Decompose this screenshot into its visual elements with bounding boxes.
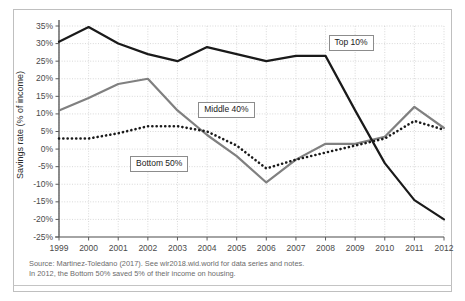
chart-figure: Savings rate (% of income) 35%30%25%20%1… [0, 0, 465, 301]
footnote: In 2012, the Bottom 50% saved 5% of thei… [29, 269, 236, 279]
y-tick-label: 30% [19, 39, 53, 47]
series-line-top-10 [59, 27, 444, 219]
y-tick-label: 15% [19, 92, 53, 100]
y-tick-label: 35% [19, 22, 53, 30]
y-tick-label: -15% [19, 197, 53, 205]
y-tick-label: -5% [19, 162, 53, 170]
y-tick-label: 25% [19, 57, 53, 65]
x-tick-label: 2012 [424, 243, 464, 253]
y-tick-label: 5% [19, 127, 53, 135]
source-note: Source: Martinez-Toledano (2017). See wi… [29, 259, 304, 269]
note-divider [13, 285, 452, 286]
y-tick-label: -25% [19, 233, 53, 241]
y-tick-label: 20% [19, 74, 53, 82]
y-tick-label: -20% [19, 215, 53, 223]
series-label-top-10: Top 10% [329, 35, 374, 51]
series-label-bottom-50: Bottom 50% [130, 156, 188, 172]
series-label-middle-40: Middle 40% [198, 102, 254, 118]
series-line-bottom-50 [59, 121, 444, 168]
y-tick-label: 0% [19, 145, 53, 153]
y-tick-label: 10% [19, 109, 53, 117]
y-tick-label: -10% [19, 180, 53, 188]
savings-rate-line-chart [0, 0, 465, 301]
